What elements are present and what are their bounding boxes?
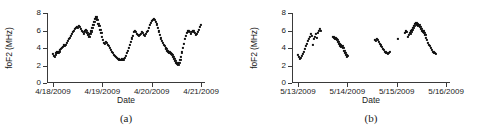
data-point (157, 30, 159, 32)
data-point (130, 41, 132, 43)
figure-panels-row: foF2 (MHz) 02468 4/18/20094/19/20094/20/… (0, 0, 490, 138)
x-axis-label-b: Date (292, 95, 450, 105)
data-point (180, 56, 182, 58)
y-tick-a (43, 66, 47, 67)
data-point (305, 45, 307, 47)
scatter-series-a (47, 13, 205, 83)
data-point (98, 25, 100, 27)
y-tick-label-b: 6 (282, 27, 286, 35)
data-point (347, 55, 349, 57)
y-tick-b (288, 66, 292, 67)
data-point (82, 33, 84, 35)
data-point (158, 34, 160, 36)
y-tick-a (43, 31, 47, 32)
data-point (131, 37, 133, 39)
data-point (96, 19, 98, 21)
y-axis-label-a: foF2 (MHz) (4, 16, 18, 80)
data-point (313, 38, 315, 40)
data-point (132, 35, 134, 37)
y-tick-label-a: 2 (37, 62, 41, 70)
y-tick-b (288, 83, 292, 84)
data-point (389, 50, 391, 52)
data-point (90, 30, 92, 32)
y-tick-label-b: 4 (282, 44, 286, 52)
y-tick-a (43, 13, 47, 14)
data-point (397, 38, 399, 40)
y-tick-b (288, 48, 292, 49)
data-point (126, 52, 128, 54)
data-point (182, 47, 184, 49)
data-point (320, 29, 322, 31)
y-tick-label-a: 0 (37, 79, 41, 87)
data-point (91, 27, 93, 29)
data-point (317, 32, 319, 34)
y-tick-b (288, 13, 292, 14)
plot-area-a: 02468 4/18/20094/19/20094/20/20094/21/20… (47, 13, 205, 83)
scatter-series-b (292, 13, 450, 83)
plot-area-b: 02468 5/13/20095/14/20095/15/20095/16/20… (292, 13, 450, 83)
y-tick-label-a: 4 (37, 44, 41, 52)
data-point (184, 38, 186, 40)
data-point (127, 50, 129, 52)
data-point (197, 31, 199, 33)
data-point (312, 43, 314, 45)
panel-caption-a: (a) (47, 112, 205, 124)
data-point (303, 50, 305, 52)
data-point (200, 24, 202, 26)
data-point (304, 48, 306, 50)
y-tick-label-b: 0 (282, 79, 286, 87)
data-point (179, 59, 181, 61)
data-point (181, 51, 183, 53)
y-tick-a (43, 83, 47, 84)
data-point (302, 53, 304, 55)
panel-caption-b: (b) (292, 112, 450, 124)
data-point (100, 32, 102, 34)
data-point (185, 35, 187, 37)
y-tick-label-b: 8 (282, 9, 286, 17)
data-point (306, 43, 308, 45)
data-point (409, 33, 411, 35)
y-axis-label-b: foF2 (MHz) (249, 16, 263, 80)
y-tick-b (288, 31, 292, 32)
data-point (435, 53, 437, 55)
y-tick-a (43, 48, 47, 49)
data-point (308, 38, 310, 40)
data-point (178, 62, 180, 64)
data-point (149, 24, 151, 26)
panel-b: foF2 (MHz) 02468 5/13/20095/14/20095/15/… (245, 0, 490, 138)
data-point (311, 35, 313, 37)
data-point (99, 29, 101, 31)
x-axis-label-a: Date (47, 95, 205, 105)
data-point (147, 29, 149, 31)
data-point (156, 23, 158, 25)
y-tick-label-a: 8 (37, 9, 41, 17)
data-point (101, 36, 103, 38)
data-point (316, 36, 318, 38)
data-point (183, 43, 185, 45)
y-tick-label-a: 6 (37, 27, 41, 35)
data-point (89, 33, 91, 35)
data-point (128, 47, 130, 49)
data-point (413, 25, 415, 27)
panel-a: foF2 (MHz) 02468 4/18/20094/19/20094/20/… (0, 0, 245, 138)
data-point (125, 55, 127, 57)
data-point (148, 27, 150, 29)
data-point (157, 27, 159, 29)
data-point (92, 24, 94, 26)
data-point (198, 29, 200, 31)
data-point (93, 21, 95, 23)
y-tick-label-b: 2 (282, 62, 286, 70)
data-point (88, 36, 90, 38)
data-point (129, 43, 131, 45)
